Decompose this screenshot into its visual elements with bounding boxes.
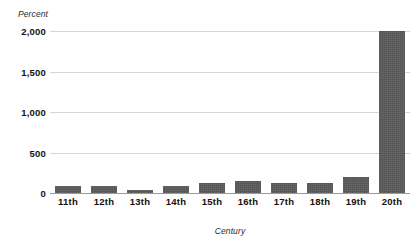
- y-axis-tick-label: 500: [2, 147, 46, 158]
- x-axis-tick-label: 17th: [266, 196, 302, 207]
- x-axis-tick-label: 11th: [50, 196, 86, 207]
- bar: [271, 183, 297, 193]
- x-axis-tick-label: 12th: [86, 196, 122, 207]
- x-axis-tick-label: 18th: [302, 196, 338, 207]
- bar-slot: [158, 31, 194, 193]
- bar: [127, 190, 153, 193]
- x-axis-tick-label: 15th: [194, 196, 230, 207]
- bar: [163, 186, 189, 193]
- bar-slot: [230, 31, 266, 193]
- x-axis-title: Century: [50, 226, 410, 236]
- x-axis-tick-label: 19th: [338, 196, 374, 207]
- x-axis-tick-label: 13th: [122, 196, 158, 207]
- bar: [235, 181, 261, 193]
- y-axis-tick-label: 2,000: [2, 26, 46, 37]
- x-axis-tick-label: 20th: [374, 196, 410, 207]
- bar-slot: [374, 31, 410, 193]
- x-axis-tick-label: 16th: [230, 196, 266, 207]
- bar-slot: [122, 31, 158, 193]
- bar-slot: [50, 31, 86, 193]
- bar: [379, 31, 405, 193]
- y-axis-tick-label: 1,000: [2, 107, 46, 118]
- bar-slot: [194, 31, 230, 193]
- y-axis-tick-label: 1,500: [2, 66, 46, 77]
- bar: [307, 183, 333, 193]
- x-axis-tick-label: 14th: [158, 196, 194, 207]
- x-axis-line: [50, 193, 410, 194]
- bar-chart-figure: Percent 05001,0001,5002,000 11th12th13th…: [0, 0, 419, 252]
- bar-series-group: [50, 31, 410, 193]
- bar-slot: [338, 31, 374, 193]
- y-axis-tick-label: 0: [2, 188, 46, 199]
- x-axis-tick-label-group: 11th12th13th14th15th16th17th18th19th20th: [50, 196, 410, 207]
- y-axis-tick-label-group: 05001,0001,5002,000: [0, 0, 46, 252]
- bar: [91, 186, 117, 193]
- bar-slot: [266, 31, 302, 193]
- bar: [343, 177, 369, 193]
- bar: [55, 186, 81, 193]
- bar: [199, 183, 225, 193]
- bar-slot: [302, 31, 338, 193]
- bar-slot: [86, 31, 122, 193]
